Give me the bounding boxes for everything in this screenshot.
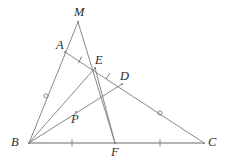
geometry-figure: MAEDPBFC bbox=[0, 0, 234, 163]
vertex-dots-layer bbox=[28, 21, 205, 144]
vertex-dot-d bbox=[121, 83, 123, 85]
vertex-dot-m bbox=[77, 21, 79, 23]
vertex-dot-e bbox=[94, 67, 96, 69]
point-label-p: P bbox=[71, 113, 79, 126]
vertex-dot-b bbox=[28, 142, 30, 144]
segment-EF bbox=[95, 68, 115, 143]
point-label-m: M bbox=[74, 6, 84, 19]
point-label-a: A bbox=[56, 39, 64, 52]
vertex-dot-f bbox=[114, 142, 116, 144]
point-label-d: D bbox=[120, 70, 129, 83]
segment-BE bbox=[29, 68, 95, 143]
geometry-canvas bbox=[0, 0, 234, 163]
circle-mark-AB bbox=[44, 94, 48, 98]
point-label-b: B bbox=[11, 136, 19, 149]
segment-MF bbox=[78, 22, 115, 143]
vertex-dot-c bbox=[203, 142, 205, 144]
point-label-c: C bbox=[208, 136, 216, 149]
segment-AC bbox=[65, 52, 204, 143]
point-label-f: F bbox=[111, 146, 119, 159]
tick-marks-layer bbox=[72, 57, 160, 147]
point-label-e: E bbox=[95, 54, 103, 67]
tick-ED bbox=[106, 73, 110, 79]
vertex-dot-a bbox=[64, 51, 66, 53]
